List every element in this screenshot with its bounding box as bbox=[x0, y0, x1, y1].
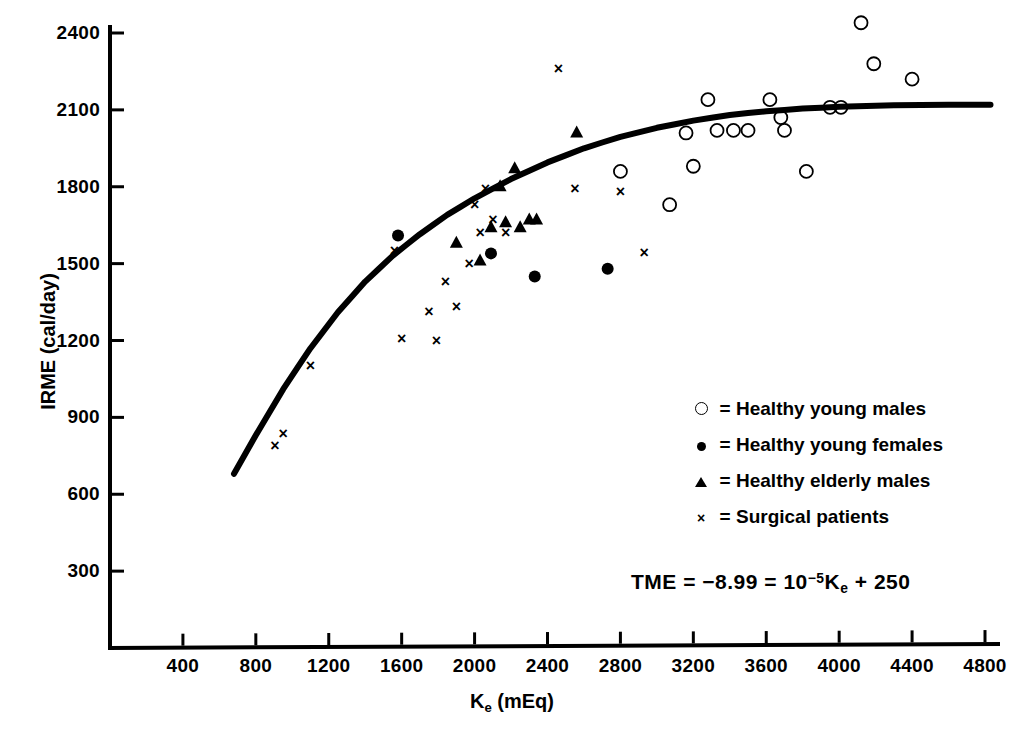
legend-item: ×=Surgical patients bbox=[688, 499, 988, 535]
x-axis-label-subscript: e bbox=[484, 700, 491, 715]
legend-item-label: Healthy elderly males bbox=[736, 470, 930, 492]
point-surgical-patient: × bbox=[390, 242, 399, 259]
point-surgical-patient: × bbox=[554, 60, 563, 77]
point-surgical-patient: × bbox=[279, 425, 288, 442]
legend-equals-sign: = bbox=[714, 398, 736, 420]
x-axis-label-unit: (mEq) bbox=[492, 690, 554, 712]
legend: =Healthy young males=Healthy young femal… bbox=[688, 391, 988, 535]
y-tick-label: 2100 bbox=[0, 99, 100, 121]
point-surgical-patient: × bbox=[306, 357, 315, 374]
x-axis-line bbox=[108, 644, 1000, 648]
x-tick-label: 2400 bbox=[526, 655, 569, 677]
x-tick-label: 1200 bbox=[307, 655, 350, 677]
point-healthy-young-male bbox=[663, 198, 676, 211]
point-healthy-young-female bbox=[392, 229, 404, 241]
equation-coefficient: −8.99 bbox=[702, 570, 758, 593]
regression-equation: TME = −8.99 = 10−5Ke + 250 bbox=[631, 570, 910, 596]
point-surgical-patient: × bbox=[481, 180, 490, 197]
equation-equals-2: = bbox=[764, 570, 777, 593]
point-surgical-patient: × bbox=[616, 183, 625, 200]
legend-item-label: Surgical patients bbox=[736, 506, 889, 528]
point-healthy-young-male bbox=[727, 124, 740, 137]
y-axis-ticks bbox=[110, 33, 124, 571]
x-tick-label: 2000 bbox=[453, 655, 496, 677]
filled-circle-icon bbox=[688, 434, 714, 456]
point-surgical-patient: × bbox=[470, 196, 479, 213]
point-healthy-young-male bbox=[800, 165, 813, 178]
legend-symbol-glyph bbox=[697, 442, 706, 451]
equation-base: 10 bbox=[783, 570, 807, 593]
point-healthy-young-female bbox=[529, 270, 541, 282]
point-healthy-young-male bbox=[701, 93, 714, 106]
point-healthy-young-male bbox=[778, 124, 791, 137]
legend-equals-sign: = bbox=[714, 434, 736, 456]
y-tick-label: 300 bbox=[0, 560, 100, 582]
y-tick-label: 2400 bbox=[0, 22, 100, 44]
data-markers: ××××××××××××××××××× bbox=[270, 16, 918, 453]
point-surgical-patient: × bbox=[424, 303, 433, 320]
legend-equals-sign: = bbox=[714, 470, 736, 492]
equation-equals-1: = bbox=[683, 570, 696, 593]
legend-item: =Healthy elderly males bbox=[688, 463, 988, 499]
x-tick-label: 4800 bbox=[963, 655, 1006, 677]
point-healthy-young-male bbox=[680, 126, 693, 139]
point-surgical-patient: × bbox=[397, 330, 406, 347]
legend-equals-sign: = bbox=[714, 506, 736, 528]
y-tick-label: 1800 bbox=[0, 176, 100, 198]
point-healthy-young-male bbox=[763, 93, 776, 106]
point-healthy-young-male bbox=[855, 16, 868, 29]
equation-lead: TME bbox=[631, 570, 677, 593]
point-healthy-young-male bbox=[614, 165, 627, 178]
x-tick-label: 1600 bbox=[380, 655, 423, 677]
point-healthy-young-male bbox=[687, 160, 700, 173]
point-surgical-patient: × bbox=[570, 180, 579, 197]
x-tick-label: 4400 bbox=[890, 655, 933, 677]
point-healthy-elderly-male bbox=[474, 254, 487, 266]
point-healthy-young-male bbox=[906, 73, 919, 86]
x-tick-label: 4000 bbox=[817, 655, 860, 677]
point-surgical-patient: × bbox=[432, 332, 441, 349]
point-healthy-young-male bbox=[711, 124, 724, 137]
point-surgical-patient: × bbox=[501, 224, 510, 241]
legend-symbol-glyph bbox=[695, 402, 708, 415]
point-healthy-young-male bbox=[867, 57, 880, 70]
point-healthy-elderly-male bbox=[450, 236, 463, 248]
point-healthy-elderly-male bbox=[508, 161, 521, 173]
equation-exponent: −5 bbox=[808, 570, 825, 586]
x-tick-label: 2800 bbox=[599, 655, 642, 677]
equation-variable-subscript: e bbox=[840, 580, 848, 596]
plot-canvas: ××××××××××××××××××× bbox=[0, 0, 1024, 734]
x-tick-label: 400 bbox=[167, 655, 200, 677]
point-healthy-elderly-male bbox=[570, 125, 583, 137]
legend-symbol-glyph bbox=[695, 477, 707, 487]
chart-figure: ××××××××××××××××××× 24002100180015001200… bbox=[0, 0, 1024, 734]
x-tick-label: 800 bbox=[240, 655, 273, 677]
point-healthy-young-female bbox=[602, 263, 614, 275]
x-tick-label: 3600 bbox=[745, 655, 788, 677]
legend-item-label: Healthy young males bbox=[736, 398, 926, 420]
legend-item: =Healthy young females bbox=[688, 427, 988, 463]
point-healthy-young-female bbox=[485, 247, 497, 259]
y-axis-label: IRME (cal/day) bbox=[37, 232, 60, 452]
point-surgical-patient: × bbox=[441, 273, 450, 290]
y-tick-label: 600 bbox=[0, 483, 100, 505]
x-mark-icon: × bbox=[688, 506, 714, 528]
equation-variable: K bbox=[825, 570, 841, 593]
point-healthy-young-male bbox=[742, 124, 755, 137]
point-surgical-patient: × bbox=[639, 244, 648, 261]
legend-item-label: Healthy young females bbox=[736, 434, 943, 456]
x-axis-label-main: K bbox=[470, 690, 484, 712]
filled-triangle-icon bbox=[688, 470, 714, 492]
equation-constant: 250 bbox=[874, 570, 911, 593]
point-surgical-patient: × bbox=[488, 211, 497, 228]
point-surgical-patient: × bbox=[475, 224, 484, 241]
open-circle-icon bbox=[688, 398, 714, 420]
x-tick-label: 3200 bbox=[672, 655, 715, 677]
legend-symbol-glyph: × bbox=[697, 511, 705, 525]
axis-lines bbox=[108, 25, 1000, 648]
equation-plus: + bbox=[855, 570, 868, 593]
point-surgical-patient: × bbox=[452, 298, 461, 315]
point-surgical-patient: × bbox=[464, 255, 473, 272]
x-axis-label: Ke (mEq) bbox=[0, 690, 1024, 715]
legend-item: =Healthy young males bbox=[688, 391, 988, 427]
